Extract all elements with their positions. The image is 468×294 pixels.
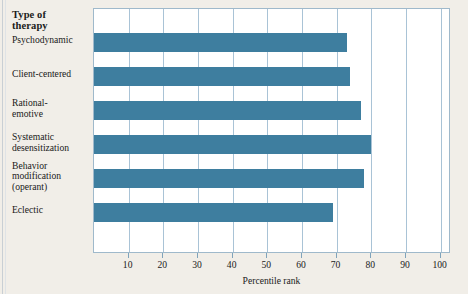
category-label-3: Rational-emotive (12, 98, 94, 118)
category-axis-labels: Type of therapy PsychodynamicClient-cent… (10, 0, 92, 294)
bar-3 (94, 101, 361, 120)
x-tick-label-80: 80 (357, 259, 383, 270)
x-axis-title: Percentile rank (93, 275, 450, 286)
x-tick-50 (266, 253, 267, 258)
x-tick-30 (197, 253, 198, 258)
x-tick-20 (162, 253, 163, 258)
category-label-4: Systematicdesensitization (12, 132, 94, 152)
page-gutter-rule-inner (5, 0, 6, 294)
bar-6 (94, 203, 333, 222)
category-label-5: Behaviormodification(operant) (12, 161, 94, 192)
x-axis: 102030405060708090100 Percentile rank (93, 253, 450, 293)
gridline-80 (371, 9, 372, 252)
gridline-90 (406, 9, 407, 252)
bar-4 (94, 135, 371, 154)
x-tick-label-20: 20 (149, 259, 175, 270)
x-tick-label-100: 100 (427, 259, 453, 270)
category-label-2: Client-centered (12, 69, 94, 79)
x-tick-10 (128, 253, 129, 258)
gridline-100 (441, 9, 442, 252)
page-gutter-rule-outer (2, 0, 3, 294)
x-tick-label-70: 70 (323, 259, 349, 270)
x-tick-90 (405, 253, 406, 258)
category-label-5-line-3: (operant) (12, 182, 94, 192)
x-tick-label-10: 10 (115, 259, 141, 270)
x-tick-label-50: 50 (253, 259, 279, 270)
x-tick-80 (370, 253, 371, 258)
category-label-6: Eclectic (12, 205, 94, 215)
bar-5 (94, 169, 364, 188)
figure-panel: Type of therapy PsychodynamicClient-cent… (0, 0, 468, 294)
x-tick-40 (232, 253, 233, 258)
x-tick-label-40: 40 (219, 259, 245, 270)
x-tick-60 (301, 253, 302, 258)
x-tick-label-60: 60 (288, 259, 314, 270)
y-axis-title-line-1: Type of (12, 9, 92, 20)
x-tick-70 (336, 253, 337, 258)
bar-1 (94, 33, 347, 52)
y-axis-title-line-2: therapy (12, 20, 92, 31)
category-label-3-line-2: emotive (12, 109, 94, 119)
category-label-1-line-1: Psychodynamic (12, 35, 94, 45)
category-label-4-line-2: desensitization (12, 143, 94, 153)
category-label-3-line-1: Rational- (12, 98, 94, 108)
plot-area (93, 8, 450, 253)
bar-2 (94, 67, 350, 86)
x-tick-100 (440, 253, 441, 258)
x-tick-label-30: 30 (184, 259, 210, 270)
y-axis-title: Type of therapy (12, 9, 92, 31)
category-label-2-line-1: Client-centered (12, 69, 94, 79)
category-label-6-line-1: Eclectic (12, 205, 94, 215)
x-tick-label-90: 90 (392, 259, 418, 270)
category-label-1: Psychodynamic (12, 35, 94, 45)
category-label-4-line-1: Systematic (12, 132, 94, 142)
